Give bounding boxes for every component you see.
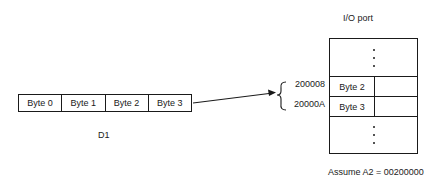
ellipsis-icon [330,39,417,76]
memory-block: Byte 2 Byte 3 [329,38,418,154]
assumption-note: Assume A2 = 00200000 [328,167,424,177]
ellipsis-icon [330,116,417,153]
memory-cell-content: Byte 2 [330,77,375,96]
memory-row-20000a: Byte 3 [330,96,417,116]
memory-row-200008: Byte 2 [330,76,417,96]
address-label-20000a: 20000A [275,99,325,109]
memory-cell-content: Byte 3 [330,97,375,116]
address-label-200008: 200008 [275,79,325,89]
